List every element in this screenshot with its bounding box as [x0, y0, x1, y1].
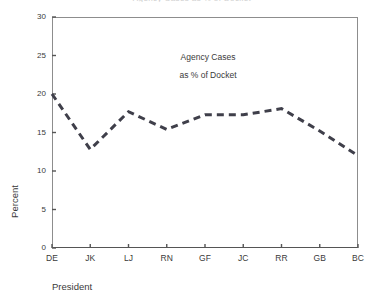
- annotation-line-2: as % of Docket: [148, 66, 268, 84]
- x-tick-label: JC: [223, 253, 263, 263]
- x-tick-label: GB: [300, 253, 340, 263]
- x-axis-ticks: [52, 244, 358, 248]
- data-series-line: [52, 94, 358, 156]
- y-axis-ticks: [52, 17, 56, 248]
- x-tick-label: RR: [262, 253, 302, 263]
- x-tick-label: LJ: [109, 253, 149, 263]
- annotation-line-1: Agency Cases: [148, 48, 268, 66]
- y-axis-label: Percent: [9, 172, 20, 232]
- x-tick-label: GF: [185, 253, 225, 263]
- chart-annotation: Agency Cases as % of Docket: [148, 48, 268, 84]
- y-tick-label: 25: [12, 52, 46, 60]
- x-tick-label: JK: [70, 253, 110, 263]
- chart-figure: Agency Cases as % of Docket 051015202530…: [0, 0, 384, 308]
- y-tick-label: 0: [12, 244, 46, 252]
- x-tick-label: BC: [338, 253, 378, 263]
- x-axis-label: President: [52, 281, 92, 292]
- series-polyline: [52, 94, 358, 156]
- x-tick-label: DE: [32, 253, 72, 263]
- y-tick-label: 30: [12, 13, 46, 21]
- y-tick-label: 20: [12, 90, 46, 98]
- y-tick-label: 15: [12, 129, 46, 137]
- x-tick-label: RN: [147, 253, 187, 263]
